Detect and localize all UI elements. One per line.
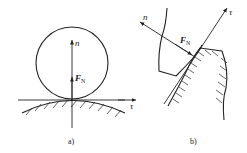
- tangent-label-b: τ: [229, 7, 233, 17]
- caption-b: b): [190, 137, 197, 146]
- force-label-a: FN: [74, 73, 86, 84]
- force-label-b: FN: [179, 35, 191, 46]
- contact-force-diagram: n FN a) τ: [0, 0, 247, 153]
- panel-b: τ n FN b): [140, 7, 233, 146]
- tangent-label-a: τ: [130, 101, 134, 111]
- caption-a: a): [68, 137, 75, 146]
- normal-label-b: n: [143, 12, 148, 22]
- normal-label-a: n: [75, 38, 80, 48]
- tooth-hatching-left: [173, 52, 204, 103]
- panel-a: n FN a): [18, 27, 125, 146]
- surface-hatching: [26, 100, 121, 117]
